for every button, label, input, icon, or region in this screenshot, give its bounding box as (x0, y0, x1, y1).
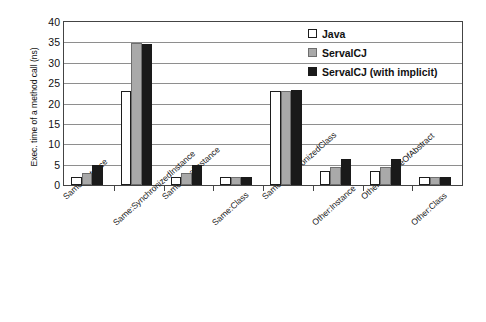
bar (419, 177, 430, 185)
bar-group (114, 22, 164, 185)
legend-entry: Java (308, 24, 460, 43)
bar (171, 177, 182, 185)
legend-entry: ServalCJ (308, 43, 460, 62)
bar (121, 91, 132, 185)
bar (281, 91, 292, 185)
y-tick-label: 35 (20, 36, 60, 48)
bar (220, 177, 231, 185)
bar (231, 177, 242, 185)
bar (430, 177, 441, 185)
legend-swatch-icon (308, 67, 317, 76)
legend-label: ServalCJ (with implicit) (322, 66, 438, 78)
bar-group (213, 22, 263, 185)
x-tick-mark (263, 186, 264, 191)
bar (192, 165, 203, 185)
x-axis-category-labels: Same:InstanceSame:SynchronizedInstanceSa… (0, 186, 486, 322)
bar (181, 173, 192, 185)
legend: JavaServalCJServalCJ (with implicit) (308, 24, 460, 81)
legend-swatch-icon (308, 48, 317, 57)
y-axis-ticks: 0510152025303540 (15, 21, 60, 186)
bar (320, 171, 331, 185)
bar (370, 171, 381, 185)
x-tick-mark (412, 186, 413, 191)
x-tick-mark (114, 186, 115, 191)
y-tick-label: 40 (20, 16, 60, 28)
y-tick-label: 30 (20, 57, 60, 69)
bar (270, 91, 281, 185)
x-category-label: Same:Class (210, 190, 250, 228)
legend-label: Java (322, 28, 345, 40)
bar (391, 159, 402, 185)
y-tick-label: 15 (20, 118, 60, 130)
bar (241, 177, 252, 185)
y-tick-label: 10 (20, 138, 60, 150)
bar (330, 167, 341, 185)
bar (82, 173, 93, 185)
x-tick-mark (313, 186, 314, 191)
bar (440, 177, 451, 185)
bar (92, 165, 103, 185)
x-tick-mark (164, 186, 165, 191)
bar (71, 177, 82, 185)
x-tick-mark (363, 186, 364, 191)
legend-label: ServalCJ (322, 47, 367, 59)
y-tick-label: 20 (20, 98, 60, 110)
bar (341, 159, 352, 185)
y-tick-label: 5 (20, 159, 60, 171)
legend-entry: ServalCJ (with implicit) (308, 62, 460, 81)
x-tick-mark (213, 186, 214, 191)
bar (291, 90, 302, 185)
x-category-label: Other:Class (409, 190, 449, 227)
legend-swatch-icon (308, 29, 317, 38)
y-tick-label: 25 (20, 77, 60, 89)
bar (131, 43, 142, 185)
bar (380, 167, 391, 185)
bar-chart-figure: Exec. time of a method call (ns) 0510152… (0, 0, 486, 322)
bar (142, 44, 153, 185)
x-category-label: Other:Instance (310, 183, 358, 227)
